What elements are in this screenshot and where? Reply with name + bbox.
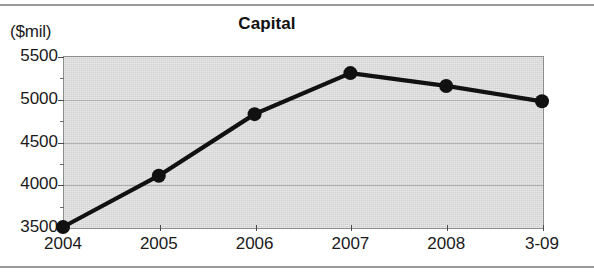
y-axis-tick-label: 4000 — [20, 174, 58, 194]
x-axis-tick-label: 2005 — [140, 234, 178, 254]
x-axis-tick-label: 3-09 — [525, 234, 559, 254]
gridline-y — [64, 100, 543, 101]
y-axis-tick-label: 4500 — [20, 132, 58, 152]
plot-area — [63, 56, 544, 229]
x-tick — [351, 225, 352, 231]
x-axis-labels: 200420052006200720083-09 — [0, 234, 594, 258]
gridline-y — [64, 143, 543, 144]
x-tick — [160, 225, 161, 231]
y-axis-tick-label: 5500 — [20, 46, 58, 66]
y-axis-labels: 35004000450050005500 — [0, 56, 58, 227]
x-axis-tick-label: 2008 — [427, 234, 465, 254]
x-axis-tick-label: 2004 — [44, 234, 82, 254]
y-axis-tick-label: 5000 — [20, 89, 58, 109]
y-tick-major — [58, 185, 64, 186]
y-tick-major — [58, 228, 64, 229]
y-tick-major — [58, 143, 64, 144]
bottom-border-rule — [0, 266, 594, 268]
y-tick-major — [58, 57, 64, 58]
x-axis-tick-label: 2006 — [236, 234, 274, 254]
y-tick-major — [58, 100, 64, 101]
x-tick — [543, 225, 544, 231]
x-axis-tick-label: 2007 — [331, 234, 369, 254]
y-tick-minor — [60, 78, 64, 79]
y-tick-minor — [60, 121, 64, 122]
chart-title: Capital — [0, 14, 594, 34]
x-tick — [256, 225, 257, 231]
gridline-y — [64, 185, 543, 186]
capital-line-chart: ($mil) Capital 35004000450050005500 2004… — [0, 0, 594, 273]
y-tick-minor — [60, 164, 64, 165]
x-tick — [447, 225, 448, 231]
y-tick-minor — [60, 207, 64, 208]
top-border-rule — [0, 4, 594, 6]
